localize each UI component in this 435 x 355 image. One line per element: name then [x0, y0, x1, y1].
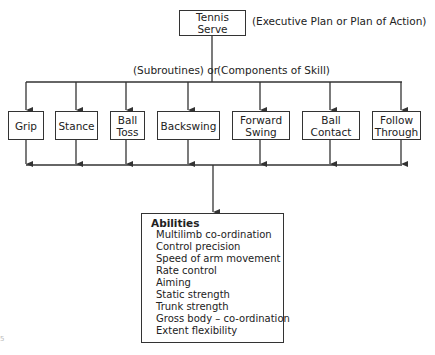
node-label-2: Swing: [240, 126, 282, 138]
abilities-list: Multilimb co-ordination Control precisio…: [151, 229, 283, 337]
node-label: Follow: [375, 114, 419, 126]
ability-item: Static strength: [156, 289, 283, 301]
components-of-skill-label: (Components of Skill): [217, 64, 330, 76]
ability-item: Multilimb co-ordination: [156, 229, 283, 241]
ability-item: Gross body – co-ordination: [156, 313, 283, 325]
node-label: Stance: [58, 120, 94, 132]
ability-item: Aiming: [156, 277, 283, 289]
node-stance: Stance: [55, 111, 98, 140]
node-label: Ball: [117, 114, 139, 126]
node-label: Ball: [311, 114, 352, 126]
ability-item: Speed of arm movement: [156, 253, 283, 265]
node-backswing: Backswing: [157, 111, 220, 140]
node-label-2: Contact: [311, 126, 352, 138]
ability-item: Rate control: [156, 265, 283, 277]
node-label: Backswing: [161, 120, 217, 132]
node-forward-swing: ForwardSwing: [232, 111, 290, 140]
node-label: Forward: [240, 114, 282, 126]
node-tennis-serve: Tennis Serve: [179, 10, 246, 36]
node-label: Grip: [15, 120, 37, 132]
abilities-box: Abilities Multilimb co-ordination Contro…: [141, 213, 284, 343]
executive-plan-annotation: (Executive Plan or Plan of Action): [252, 15, 426, 27]
abilities-title: Abilities: [151, 217, 283, 229]
node-follow-through: FollowThrough: [372, 111, 421, 140]
node-label-2: Toss: [117, 126, 139, 138]
node-grip: Grip: [8, 111, 44, 140]
node-ball-toss: BallToss: [110, 111, 145, 140]
subroutines-label: (Subroutines) or: [133, 64, 218, 76]
node-label: Tennis Serve: [180, 11, 245, 35]
ability-item: Trunk strength: [156, 301, 283, 313]
node-ball-contact: BallContact: [302, 111, 360, 140]
node-label-2: Through: [375, 126, 419, 138]
ability-item: Control precision: [156, 241, 283, 253]
ability-item: Extent flexibility: [156, 325, 283, 337]
corner-mark: 5: [0, 335, 4, 343]
